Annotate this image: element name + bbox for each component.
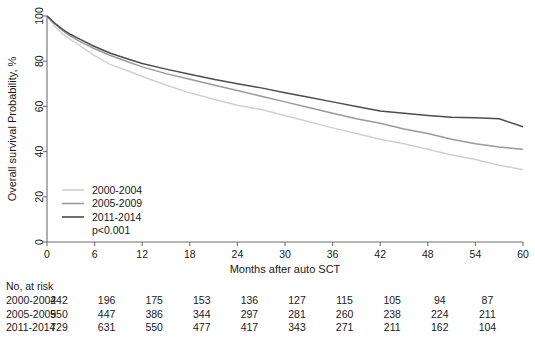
risk-count-2011-2014-m54: 104 (479, 321, 497, 333)
risk-table-header: No, at risk (6, 280, 54, 292)
x-tick-label: 6 (92, 248, 98, 260)
x-axis-title: Months after auto SCT (230, 263, 341, 275)
risk-count-2000-2004-m6: 196 (98, 294, 116, 306)
risk-count-2005-2009-m12: 386 (145, 308, 163, 320)
y-tick-label: 100 (33, 7, 45, 25)
survival-curves (47, 16, 523, 170)
legend-label-2000-2004: 2000-2004 (92, 184, 142, 196)
plot-axes: 02040608010006121824303642485460Months a… (6, 7, 529, 275)
risk-count-2011-2014-m18: 477 (193, 321, 211, 333)
risk-count-2005-2009-m54: 211 (479, 308, 496, 320)
survival-curve-2011-2014 (47, 16, 523, 127)
risk-count-2011-2014-m30: 343 (288, 321, 306, 333)
risk-count-2011-2014-m24: 417 (241, 321, 259, 333)
legend-pvalue: p<0.001 (92, 224, 130, 236)
x-tick-label: 30 (279, 248, 291, 260)
risk-count-2011-2014-m0: 729 (50, 321, 68, 333)
risk-count-2005-2009-m36: 260 (336, 308, 354, 320)
x-tick-label: 18 (184, 248, 196, 260)
y-tick-label: 80 (33, 55, 45, 67)
y-tick-label: 20 (33, 191, 45, 203)
x-tick-label: 48 (422, 248, 434, 260)
x-tick-label: 54 (470, 248, 482, 260)
y-tick-label: 0 (33, 239, 45, 245)
kaplan-meier-plot: 02040608010006121824303642485460Months a… (0, 0, 535, 350)
risk-count-2000-2004-m0: 242 (50, 294, 68, 306)
risk-count-2000-2004-m54: 87 (482, 294, 494, 306)
risk-count-2005-2009-m30: 281 (288, 308, 306, 320)
risk-count-2005-2009-m48: 224 (431, 308, 449, 320)
risk-count-2005-2009-m18: 344 (193, 308, 211, 320)
y-tick-label: 60 (33, 100, 45, 112)
plot-legend: 2000-20042005-20092011-2014p<0.001 (62, 184, 142, 237)
risk-count-2000-2004-m18: 153 (193, 294, 211, 306)
risk-count-2011-2014-m42: 211 (384, 321, 401, 333)
legend-label-2011-2014: 2011-2014 (92, 211, 142, 223)
risk-count-2000-2004-m24: 136 (241, 294, 259, 306)
risk-count-2000-2004-m12: 175 (145, 294, 163, 306)
risk-count-2000-2004-m48: 94 (434, 294, 446, 306)
risk-count-2005-2009-m24: 297 (241, 308, 259, 320)
x-tick-label: 60 (517, 248, 529, 260)
risk-count-2011-2014-m48: 162 (431, 321, 449, 333)
risk-count-2005-2009-m0: 550 (50, 308, 68, 320)
survival-curve-2005-2009 (47, 16, 523, 149)
risk-table: No, at risk2000-200424219617515313612711… (6, 280, 496, 333)
x-tick-label: 42 (374, 248, 386, 260)
legend-label-2005-2009: 2005-2009 (92, 197, 142, 209)
risk-count-2000-2004-m36: 115 (336, 294, 353, 306)
x-tick-label: 36 (327, 248, 339, 260)
risk-count-2000-2004-m30: 127 (288, 294, 306, 306)
risk-count-2005-2009-m42: 238 (383, 308, 401, 320)
risk-count-2000-2004-m42: 105 (383, 294, 401, 306)
risk-count-2011-2014-m12: 550 (145, 321, 163, 333)
x-tick-label: 12 (136, 248, 148, 260)
risk-count-2011-2014-m6: 631 (98, 321, 116, 333)
y-tick-label: 40 (33, 146, 45, 158)
risk-row-label-2011-2014: 2011-2014 (6, 321, 56, 333)
risk-count-2011-2014-m36: 271 (336, 321, 354, 333)
risk-count-2005-2009-m6: 447 (98, 308, 116, 320)
y-axis-title: Overall survival Probability, % (6, 56, 18, 201)
survival-curve-figure: 02040608010006121824303642485460Months a… (0, 0, 535, 350)
risk-row-label-2005-2009: 2005-2009 (6, 308, 56, 320)
x-tick-label: 0 (44, 248, 50, 260)
x-tick-label: 24 (232, 248, 244, 260)
risk-row-label-2000-2004: 2000-2004 (6, 294, 56, 306)
